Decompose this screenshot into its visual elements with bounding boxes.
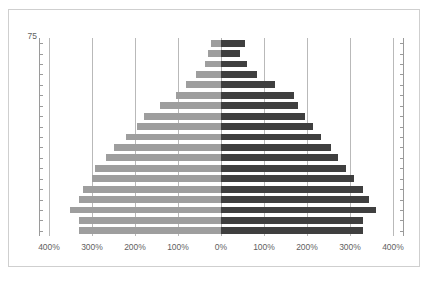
y-tick-left-15 <box>39 200 43 201</box>
bar-right-7 <box>221 113 305 120</box>
y-tick-right-13 <box>400 179 404 180</box>
y-tick-left-0 <box>39 43 43 44</box>
y-tick-left-10 <box>39 147 43 148</box>
bar-left-12 <box>95 165 221 172</box>
y-tick-right-7 <box>400 116 404 117</box>
chart-figure-card: 75 400%300%200%100%0%100%200%300%400% <box>8 9 420 267</box>
bar-left-17 <box>79 217 221 224</box>
y-tick-left-16 <box>39 210 43 211</box>
bar-right-10 <box>221 144 331 151</box>
x-tick-label-6: 200% <box>296 242 318 252</box>
bar-left-16 <box>70 207 221 214</box>
x-tick-label-4: 0% <box>215 242 227 252</box>
y-tick-left-9 <box>39 137 43 138</box>
bar-right-2 <box>221 61 247 68</box>
bar-right-12 <box>221 165 346 172</box>
y-tick-right-16 <box>400 210 404 211</box>
pyramid-row <box>49 196 393 203</box>
y-tick-left-4 <box>39 85 43 86</box>
bar-right-8 <box>221 123 313 130</box>
y-tick-left-12 <box>39 168 43 169</box>
pyramid-row <box>49 123 393 130</box>
x-tick-label-2: 200% <box>124 242 146 252</box>
x-tick-label-0: 400% <box>38 242 60 252</box>
y-tick-right-6 <box>400 106 404 107</box>
y-tick-right-2 <box>400 64 404 65</box>
y-tick-left-8 <box>39 127 43 128</box>
pyramid-row <box>49 113 393 120</box>
pyramid-row <box>49 175 393 182</box>
y-tick-left-6 <box>39 106 43 107</box>
y-tick-right-15 <box>400 200 404 201</box>
bar-right-6 <box>221 102 298 109</box>
bar-left-6 <box>160 102 221 109</box>
bar-right-15 <box>221 196 369 203</box>
pyramid-row <box>49 81 393 88</box>
bar-right-9 <box>221 134 321 141</box>
pyramid-row <box>49 165 393 172</box>
y-tick-left-5 <box>39 95 43 96</box>
bar-right-5 <box>221 92 294 99</box>
bar-left-1 <box>208 50 221 57</box>
y-tick-left-7 <box>39 116 43 117</box>
bar-left-18 <box>79 227 221 234</box>
bar-right-3 <box>221 71 257 78</box>
y-tick-right-18 <box>400 231 404 232</box>
bar-left-13 <box>92 175 221 182</box>
pyramid-row <box>49 207 393 214</box>
y-tick-right-9 <box>400 137 404 138</box>
top-clipped-text-strip <box>0 0 430 6</box>
y-tick-left-18 <box>39 231 43 232</box>
y-tick-left-1 <box>39 54 43 55</box>
pyramid-row <box>49 50 393 57</box>
bar-right-18 <box>221 227 363 234</box>
y-axis-top-label: 75 <box>15 31 37 41</box>
pyramid-row <box>49 144 393 151</box>
bar-left-10 <box>114 144 221 151</box>
pyramid-row <box>49 102 393 109</box>
x-tick-label-1: 300% <box>81 242 103 252</box>
bar-left-4 <box>186 81 221 88</box>
y-tick-right-5 <box>400 95 404 96</box>
population-pyramid-plot: 75 <box>49 38 393 236</box>
y-tick-right-11 <box>400 158 404 159</box>
y-tick-right-12 <box>400 168 404 169</box>
pyramid-row <box>49 40 393 47</box>
bar-left-3 <box>196 71 221 78</box>
bar-left-8 <box>137 123 221 130</box>
pyramid-row <box>49 227 393 234</box>
bar-left-11 <box>106 154 221 161</box>
y-tick-right-8 <box>400 127 404 128</box>
bar-left-5 <box>176 92 221 99</box>
y-tick-left-13 <box>39 179 43 180</box>
bar-left-14 <box>83 186 221 193</box>
bar-right-1 <box>221 50 240 57</box>
y-tick-right-0 <box>400 43 404 44</box>
pyramid-row <box>49 61 393 68</box>
y-tick-left-14 <box>39 189 43 190</box>
y-tick-left-2 <box>39 64 43 65</box>
x-tick-label-8: 400% <box>382 242 404 252</box>
pyramid-row <box>49 186 393 193</box>
bar-right-11 <box>221 154 338 161</box>
bar-right-16 <box>221 207 376 214</box>
pyramid-row <box>49 92 393 99</box>
y-tick-left-3 <box>39 74 43 75</box>
bar-right-4 <box>221 81 275 88</box>
bar-left-2 <box>205 61 221 68</box>
y-tick-left-11 <box>39 158 43 159</box>
bar-left-15 <box>79 196 221 203</box>
y-tick-right-1 <box>400 54 404 55</box>
x-tick-label-3: 100% <box>167 242 189 252</box>
y-tick-right-10 <box>400 147 404 148</box>
x-tick-label-5: 100% <box>253 242 275 252</box>
y-tick-right-14 <box>400 189 404 190</box>
bar-left-9 <box>126 134 221 141</box>
y-tick-left-17 <box>39 220 43 221</box>
bar-right-0 <box>221 40 245 47</box>
x-axis-tick-labels: 400%300%200%100%0%100%200%300%400% <box>49 242 393 254</box>
y-tick-right-17 <box>400 220 404 221</box>
pyramid-row <box>49 134 393 141</box>
y-tick-right-4 <box>400 85 404 86</box>
bar-left-7 <box>144 113 221 120</box>
